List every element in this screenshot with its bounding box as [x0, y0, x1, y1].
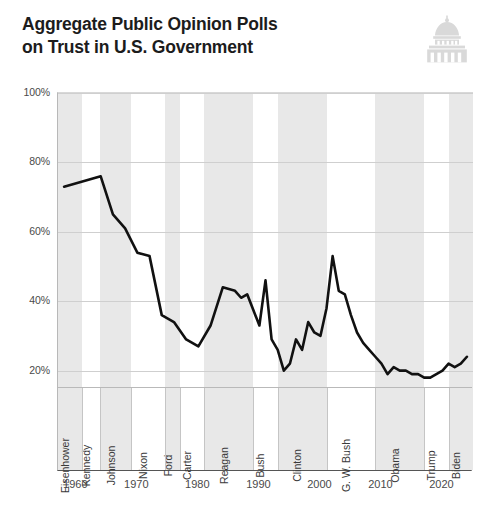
- y-tick-label-20: 20%: [2, 364, 50, 376]
- term-divider-g-w-bush: [327, 388, 328, 470]
- term-cell-reagan: Reagan: [204, 388, 253, 470]
- term-divider-biden: [449, 388, 450, 470]
- term-divider-ford: [165, 388, 166, 470]
- term-cell-nixon: Nixon: [131, 388, 165, 470]
- chart-page: Aggregate Public Opinion Polls on Trust …: [0, 0, 496, 516]
- term-divider-johnson: [100, 388, 101, 470]
- term-cell-kennedy: Kennedy: [82, 388, 100, 470]
- term-divider-kennedy: [82, 388, 83, 470]
- presidential-term-strip: EisenhowerKennedyJohnsonNixonFordCarterR…: [57, 387, 472, 471]
- term-divider-trump: [424, 388, 425, 470]
- term-cell-g-w-bush: G. W. Bush: [327, 388, 376, 470]
- term-cell-obama: Obama: [375, 388, 424, 470]
- x-tick-label-1970: 1970: [112, 478, 160, 490]
- term-label-biden: Biden: [450, 452, 461, 479]
- term-divider-reagan: [204, 388, 205, 470]
- term-divider-carter: [180, 388, 181, 470]
- y-tick-label-40: 40%: [2, 294, 50, 306]
- chart-header: Aggregate Public Opinion Polls on Trust …: [0, 0, 496, 84]
- x-tick-label-2000: 2000: [295, 478, 343, 490]
- term-label-nixon: Nixon: [138, 452, 149, 479]
- trust-line-chart: [58, 93, 473, 388]
- x-tick-label-2020: 2020: [417, 478, 465, 490]
- term-cell-clinton: Clinton: [278, 388, 327, 470]
- y-tick-label-60: 60%: [2, 225, 50, 237]
- y-tick-label-80: 80%: [2, 155, 50, 167]
- x-tick-label-2010: 2010: [356, 478, 404, 490]
- page-title: Aggregate Public Opinion Polls on Trust …: [22, 13, 352, 59]
- term-label-clinton: Clinton: [292, 449, 303, 482]
- term-cell-carter: Carter: [180, 388, 204, 470]
- term-label-carter: Carter: [182, 450, 193, 479]
- term-label-ford: Ford: [162, 454, 173, 476]
- x-tick-label-1960: 1960: [51, 478, 99, 490]
- term-divider-obama: [375, 388, 376, 470]
- term-cell-johnson: Johnson: [100, 388, 131, 470]
- term-cell-trump: Trump: [424, 388, 448, 470]
- term-cell-bush: Bush: [253, 388, 277, 470]
- term-cell-biden: Biden: [449, 388, 473, 470]
- capitol-dome-icon: [424, 14, 470, 64]
- plot-area: [57, 92, 473, 388]
- term-divider-nixon: [131, 388, 132, 470]
- trust-series-line: [64, 176, 467, 377]
- term-divider-bush: [253, 388, 254, 470]
- x-tick-label-1980: 1980: [173, 478, 221, 490]
- term-divider-clinton: [278, 388, 279, 470]
- term-label-trump: Trump: [426, 450, 437, 480]
- y-tick-label-100: 100%: [2, 86, 50, 98]
- term-cell-ford: Ford: [165, 388, 180, 470]
- term-label-bush: Bush: [255, 453, 266, 477]
- x-tick-label-1990: 1990: [234, 478, 282, 490]
